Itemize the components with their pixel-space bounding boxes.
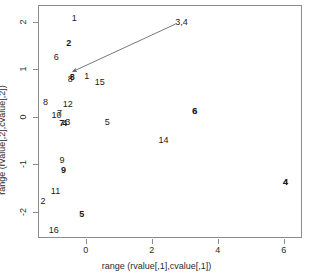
data-point-label: 11 (51, 187, 60, 196)
x-axis-tick-label: 0 (83, 246, 88, 255)
data-point-label: 8 (43, 98, 48, 107)
x-axis-tick-label: 4 (215, 246, 220, 255)
x-axis-title: range (rvalue[,1],cvalue[,1]) (102, 262, 212, 271)
data-point-label: 4 (283, 178, 288, 187)
data-point-label: 12 (63, 100, 73, 109)
data-point-label: 6 (54, 53, 59, 62)
data-point-label: 2 (66, 38, 71, 47)
data-point-label: 1 (72, 13, 77, 22)
x-axis-tick (218, 239, 219, 244)
data-point-label: 5 (79, 210, 84, 219)
data-point-label: 16 (49, 226, 59, 235)
data-point-label: 6 (192, 106, 197, 115)
data-point-label: 15 (95, 77, 105, 86)
x-axis-tick (86, 239, 87, 244)
plot-panel-box (38, 5, 302, 238)
y-axis-tick (33, 69, 38, 70)
data-point-label: 2 (40, 197, 45, 206)
annotation-label: 3,4 (175, 17, 188, 26)
scatter-plot-figure: 210-1-2024616811581210735614911216428746… (0, 0, 313, 280)
y-axis-tick-label: -1 (19, 157, 28, 171)
data-point-label: 1 (84, 71, 89, 80)
y-axis-tick (33, 164, 38, 165)
data-point-label: 7 (57, 108, 62, 117)
y-axis-tick-label: 1 (19, 62, 28, 76)
data-point-label: 5 (105, 117, 110, 126)
x-axis-tick (284, 239, 285, 244)
y-axis-title: range (rvalue[,2],cvalue[,2]) (0, 85, 7, 195)
data-point-label: 4 (62, 119, 67, 128)
y-axis-tick (33, 117, 38, 118)
y-axis-tick-label: -2 (19, 205, 28, 219)
x-axis-tick-label: 6 (281, 246, 286, 255)
y-axis-tick-label: 0 (19, 110, 28, 124)
y-axis-tick (33, 22, 38, 23)
data-point-label: 9 (61, 166, 66, 175)
x-axis-tick-label: 2 (149, 246, 154, 255)
x-axis-tick (152, 239, 153, 244)
data-point-label: 14 (158, 135, 168, 144)
y-axis-title-wrap: range (rvalue[,2],cvalue[,2]) (0, 30, 7, 140)
y-axis-tick-label: 2 (19, 15, 28, 29)
data-point-label: 8 (70, 73, 75, 82)
y-axis-tick (33, 212, 38, 213)
